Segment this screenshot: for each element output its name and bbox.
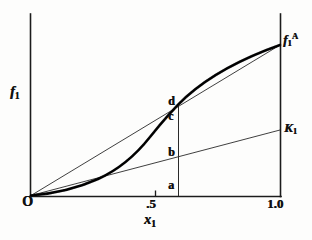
k1-line (31, 130, 280, 196)
origin-label: O (22, 194, 33, 210)
point-label-b: b (168, 145, 175, 160)
x-axis-label: x1 (144, 212, 156, 229)
chord-line (31, 45, 280, 196)
x-tick-label-one: 1.0 (267, 196, 283, 212)
figure-canvas: f1 O .5 x1 1.0 f1A K1 a b c d (0, 0, 312, 240)
line-endpoint-label-k1: K1 (284, 120, 297, 136)
chart-svg (0, 0, 312, 240)
y-axis-label: f1 (10, 84, 19, 101)
point-label-c: c (168, 109, 173, 124)
x-tick-label-half: .5 (146, 196, 156, 212)
curve-endpoint-label-f1A: f1A (283, 31, 298, 48)
point-label-a: a (168, 178, 174, 193)
point-label-d: d (168, 94, 175, 109)
